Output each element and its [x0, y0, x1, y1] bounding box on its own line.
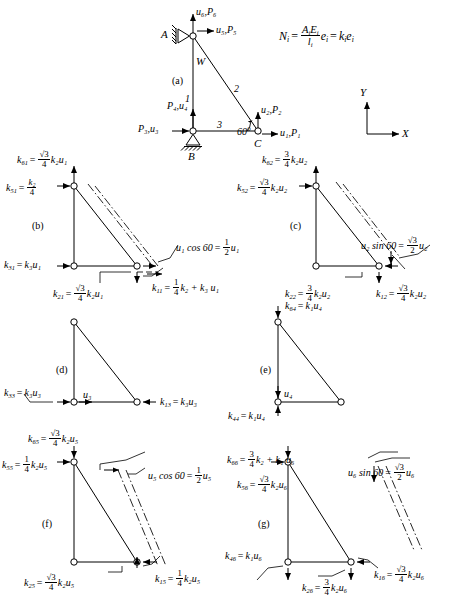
coefficient-k62: k62=34k₂u₂	[262, 150, 307, 169]
member-label-2: 2	[234, 83, 239, 94]
coefficient-k65: k65=√34k₂u₅	[28, 429, 78, 448]
coefficient-k16: k16=√34k₂u₆	[374, 565, 424, 584]
coefficient-k61: k61=√34k₂u₁	[17, 150, 67, 169]
member-label-3: 3	[217, 119, 222, 130]
coefficient-k33: k33=k₃u₃	[4, 387, 41, 398]
node-label-c: C	[254, 137, 261, 149]
coefficient-k66: k66=34k₂ + k₁ u₆	[227, 450, 294, 469]
note-u2-sin60: u₂ sin 60=√32u₂	[361, 236, 428, 255]
panel-tag-g: (g)	[258, 518, 270, 529]
displacement-label-u4: u₄	[284, 388, 292, 399]
node-label-a: A	[161, 28, 168, 40]
dof-label-p4-u4: P₄,u₄	[167, 100, 188, 111]
note-u5-cos60: u₅ cos 60=12u₅	[148, 466, 211, 485]
dof-label-p3-u3: P₃,u₃	[138, 123, 159, 134]
note-u6-sin60: u₆ sin 60=√32u₆	[348, 463, 415, 482]
coefficient-k51: k51=k₂4	[6, 178, 37, 197]
axis-label-y: Y	[360, 86, 366, 98]
panel-tag-b: (b)	[32, 220, 44, 231]
node-label-b: B	[188, 150, 195, 162]
panel-tag-a: (a)	[172, 75, 183, 86]
axis-label-x: X	[402, 127, 409, 139]
axial-force-formula: Ni=AiEiliei=kiei	[279, 24, 354, 47]
panel-tag-d: (d)	[56, 364, 68, 375]
coefficient-k31: k31=k₃u₁	[4, 259, 41, 270]
coefficient-k55: k55=14k₂u₅	[2, 455, 47, 474]
dof-label-u6-p6: u₆,P₆	[196, 6, 217, 17]
coefficient-k56: k56=√34k₂u₆	[237, 475, 287, 494]
dof-label-u2-p2: u₂,P₂	[261, 104, 282, 115]
coefficient-k11: k11=14k₂ + k₃ u₁	[152, 278, 219, 297]
displacement-label-u3: u₃	[83, 389, 91, 400]
coefficient-k13: k13=k₃u₃	[160, 396, 197, 407]
coefficient-k52: k52=√34k₂u₂	[237, 178, 287, 197]
coefficient-k44: k44=k₁u₄	[228, 410, 265, 421]
coefficient-k46: k46=k₁u₆	[225, 550, 262, 561]
angle-label-60: 60°	[237, 126, 251, 137]
note-u1-cos60: u₁ cos 60=12u₁	[176, 238, 239, 257]
coefficient-k21: k21=√34k₂u₁	[53, 284, 103, 303]
panel-tag-c: (c)	[290, 220, 301, 231]
weight-label-w: W	[196, 55, 205, 67]
panel-tag-f: (f)	[42, 518, 52, 529]
coefficient-k15: k15=14k₂u₅	[155, 569, 200, 588]
dof-label-u1-p1: u₁,P₁	[280, 127, 301, 138]
coefficient-k12: k12=√34k₂u₂	[376, 284, 426, 303]
panel-tag-e: (e)	[260, 364, 271, 375]
coefficient-k64: k64=k₁u₄	[285, 300, 322, 311]
coefficient-k25: k25=√34k₂u₅	[24, 573, 74, 592]
dof-label-u5-p5: u₅,P₅	[216, 24, 237, 35]
coefficient-k26: k26=34k₂u₆	[302, 578, 347, 597]
formula-lhs: N	[279, 29, 287, 43]
